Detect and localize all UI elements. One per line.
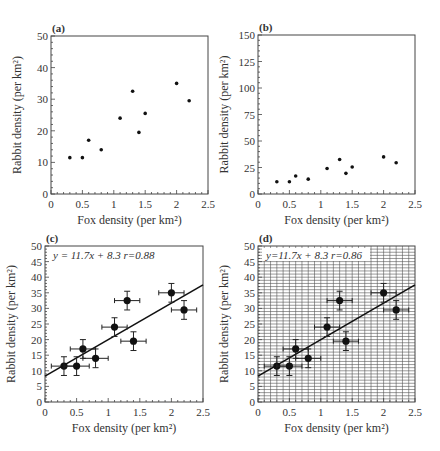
data-point [99,148,103,152]
data-point [130,338,137,345]
y-axis-label: Rabbit density (per km²) [217,265,231,383]
regression-annotation: y=11.7x + 8.3 r=0.86 [265,249,362,261]
y-tick-label: 15 [244,349,256,361]
data-point [79,345,86,352]
x-tick-label: 2.5 [196,406,210,418]
x-tick-label: 1 [318,198,324,210]
y-tick-label: 10 [31,365,43,377]
x-tick-label: 0.5 [76,198,90,210]
data-point [131,90,135,94]
x-tick-label: 1.5 [345,198,359,210]
y-tick-label: 40 [31,271,43,283]
x-tick-label: 2 [169,406,175,418]
x-axis-label: Fox density (per km²) [77,213,182,227]
y-tick-label: 40 [244,271,256,283]
y-tick-label: 30 [244,302,256,314]
x-tick-label: 0 [42,406,48,418]
y-tick-label: 50 [244,135,256,147]
data-point [288,180,292,184]
plot-frame [258,35,415,194]
y-tick-label: 15 [31,349,43,361]
y-tick-label: 50 [31,240,43,252]
x-tick-label: 0.5 [70,406,84,418]
y-tick-label: 25 [244,162,256,174]
x-tick-label: 0 [255,198,261,210]
y-tick-label: 50 [244,240,256,252]
data-point [305,355,312,362]
regression-line [45,285,203,376]
data-point [286,363,293,370]
plot-frame [45,246,203,402]
y-tick-label: 30 [37,93,49,105]
figure: 00.511.522.501020304050(a)Fox density (p… [0,0,440,451]
y-axis-label: Rabbit density (per km²) [217,56,231,174]
grid [258,246,415,402]
y-tick-label: 35 [244,287,256,299]
data-point [382,155,386,159]
data-point [294,174,298,178]
x-tick-label: 1 [318,406,324,418]
y-tick-label: 40 [37,62,49,74]
panel-label: (d) [259,232,273,245]
data-point [124,297,131,304]
y-tick-label: 45 [31,256,43,268]
y-tick-label: 25 [31,318,43,330]
x-axis-label: Fox density (per km²) [72,421,177,435]
y-tick-label: 10 [244,365,256,377]
plot-frame [51,36,208,194]
y-tick-label: 5 [250,380,256,392]
x-tick-label: 2 [174,198,180,210]
y-tick-label: 25 [244,318,256,330]
x-axis-label: Fox density (per km²) [284,421,389,435]
x-tick-label: 2.5 [408,198,422,210]
data-point [187,99,191,103]
x-tick-label: 0.5 [283,406,297,418]
data-point [344,172,348,176]
x-tick-label: 2.5 [201,198,215,210]
y-tick-label: 30 [31,302,43,314]
y-tick-label: 10 [37,156,49,168]
data-point [342,338,349,345]
data-point [323,324,330,331]
data-points [51,283,196,375]
data-point [180,306,187,313]
data-point [336,297,343,304]
data-point [68,156,72,160]
data-point [137,131,141,135]
y-tick-label: 50 [37,30,49,42]
y-tick-label: 45 [244,256,256,268]
chart-panel-d: 00.511.522.505101520253035404550(d)Fox d… [217,232,422,435]
x-tick-label: 0 [255,406,261,418]
data-point [175,82,179,86]
y-axis-label: Rabbit density (per km²) [10,56,24,174]
axis-ticks [45,246,203,402]
data-point [325,167,329,171]
panel-label: (b) [259,21,273,34]
data-points [68,82,191,160]
y-tick-label: 150 [239,29,256,41]
y-tick-label: 100 [239,82,256,94]
chart-panel-a: 00.511.522.501020304050(a)Fox density (p… [10,22,215,227]
data-points [275,155,398,184]
x-tick-label: 0 [48,198,54,210]
axis-ticks [258,35,415,194]
y-tick-label: 0 [250,188,256,200]
x-tick-label: 1 [105,406,111,418]
data-point [92,355,99,362]
data-point [393,306,400,313]
data-point [81,156,85,160]
y-tick-label: 75 [244,109,256,121]
data-point [394,161,398,165]
axis-ticks [51,36,208,194]
y-tick-label: 0 [37,396,43,408]
data-point [73,363,80,370]
data-point [338,158,342,162]
data-point [380,289,387,296]
x-tick-label: 1.5 [133,406,147,418]
x-tick-label: 1.5 [345,406,359,418]
data-point [275,180,279,184]
x-axis-label: Fox density (per km²) [284,213,389,227]
regression-annotation: y = 11.7x + 8.3 r=0.88 [52,249,155,261]
panel-label: (a) [52,22,65,35]
y-tick-label: 0 [250,396,256,408]
